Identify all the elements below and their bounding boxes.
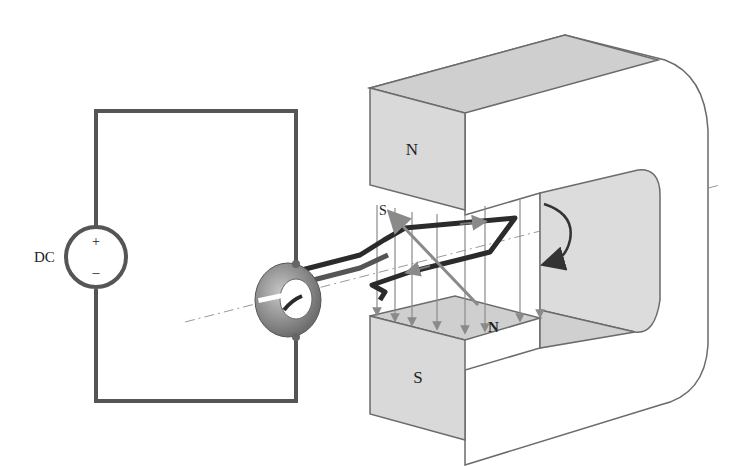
brush-bottom bbox=[292, 333, 300, 341]
magnet-north-label: N bbox=[406, 140, 418, 159]
horseshoe-magnet bbox=[370, 35, 708, 465]
coil-south-label: S bbox=[379, 203, 387, 218]
dc-label: DC bbox=[34, 249, 55, 265]
brush-top bbox=[292, 260, 300, 268]
dc-motor-diagram: + – DC N S bbox=[0, 0, 750, 466]
dc-source: + – bbox=[66, 227, 126, 287]
commutator bbox=[255, 260, 321, 341]
source-minus-label: – bbox=[92, 265, 101, 280]
source-plus-label: + bbox=[92, 234, 100, 249]
coil-north-label: N bbox=[488, 319, 499, 335]
magnet-south-label: S bbox=[413, 368, 422, 387]
